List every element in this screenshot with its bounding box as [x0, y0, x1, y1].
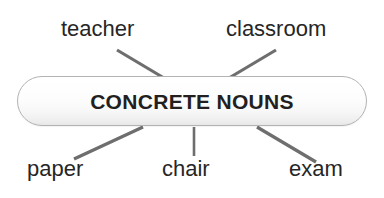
branch-label-chair: chair	[162, 158, 210, 180]
connector-line-teacher	[117, 50, 164, 78]
connector-line-classroom	[229, 50, 276, 78]
branch-label-teacher: teacher	[61, 18, 134, 40]
concept-map-diagram: CONCRETE NOUNS teacher classroom paper c…	[0, 0, 384, 198]
connector-line-paper	[74, 127, 143, 159]
branch-label-paper: paper	[27, 158, 83, 180]
branch-label-exam: exam	[289, 158, 343, 180]
central-node-label: CONCRETE NOUNS	[90, 91, 294, 112]
branch-label-classroom: classroom	[226, 18, 326, 40]
central-node-concrete-nouns: CONCRETE NOUNS	[17, 76, 367, 126]
